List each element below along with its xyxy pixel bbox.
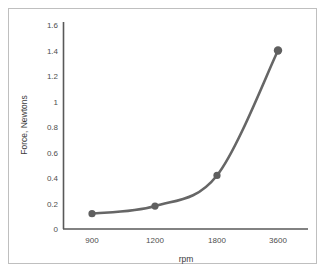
y-tick-label: 1 (54, 98, 59, 107)
x-tick-label: 1200 (146, 236, 164, 245)
data-series-line (92, 51, 278, 214)
y-tick-label: 0.6 (47, 149, 59, 158)
y-tick-label: 1.4 (47, 47, 59, 56)
data-point-marker (274, 46, 282, 54)
x-tick-label: 1800 (208, 236, 226, 245)
y-tick-label: 0.2 (47, 200, 59, 209)
x-tick-label: 3600 (269, 236, 287, 245)
line-chart-plot: 0 0.2 0.4 0.6 0.8 1 1.2 1.4 1.6 900 1200… (0, 0, 327, 274)
x-tick-label: 900 (85, 236, 99, 245)
chart-figure: 0 0.2 0.4 0.6 0.8 1 1.2 1.4 1.6 900 1200… (0, 0, 327, 274)
data-point-marker (213, 172, 220, 179)
data-point-marker (88, 210, 95, 217)
y-tick-label: 0.4 (47, 174, 59, 183)
y-tick-label: 0.8 (47, 123, 59, 132)
x-axis-title: rpm (179, 254, 194, 264)
y-tick-label: 1.2 (47, 72, 59, 81)
y-tick-label: 0 (54, 225, 59, 234)
data-point-marker (151, 202, 158, 209)
y-axis-title: Force, Newtons (19, 95, 29, 155)
y-tick-label: 1.6 (47, 21, 59, 30)
